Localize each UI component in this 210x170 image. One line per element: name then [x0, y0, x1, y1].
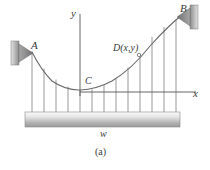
label-point-b: B — [180, 3, 187, 14]
cable-curve — [32, 14, 183, 90]
cable-diagram-svg — [0, 0, 210, 170]
label-point-c: C — [85, 76, 92, 86]
distributed-load-bar — [25, 112, 180, 127]
hanger-lines-group — [32, 20, 176, 113]
label-axis-y: y — [71, 8, 76, 19]
point-d-marker — [137, 53, 140, 56]
wall-block-left-icon — [11, 41, 19, 65]
figure-container: A B C D(x,y) y x w (a) — [0, 0, 210, 170]
label-point-d: D(x,y) — [113, 43, 138, 53]
wall-block-right-icon — [190, 5, 198, 29]
support-left-group — [11, 41, 33, 65]
figure-caption: (a) — [95, 147, 106, 157]
label-load-w: w — [100, 129, 107, 139]
label-axis-x: x — [193, 88, 198, 99]
label-point-a: A — [31, 40, 38, 51]
